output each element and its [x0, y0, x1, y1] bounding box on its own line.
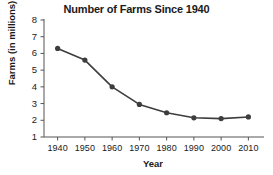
y-tick-label: 2	[23, 115, 37, 125]
y-tick-label: 1	[23, 132, 37, 142]
data-point	[82, 58, 87, 63]
data-point	[55, 46, 60, 51]
y-tick-label: 7	[23, 32, 37, 42]
data-point	[246, 114, 251, 119]
data-point	[137, 102, 142, 107]
y-tick-label: 5	[23, 65, 37, 75]
data-point-markers	[55, 46, 251, 121]
y-tick-label: 8	[23, 15, 37, 25]
y-tick-label: 6	[23, 48, 37, 58]
axes	[44, 19, 264, 137]
data-point	[164, 110, 169, 115]
data-point	[110, 84, 115, 89]
line-chart: Number of Farms Since 1940 Farms (in mil…	[0, 0, 273, 175]
x-tick-label: 2010	[231, 143, 265, 153]
data-point	[219, 116, 224, 121]
axis-ticks	[41, 20, 249, 141]
y-tick-label: 3	[23, 99, 37, 109]
y-tick-label: 4	[23, 82, 37, 92]
data-point	[191, 115, 196, 120]
